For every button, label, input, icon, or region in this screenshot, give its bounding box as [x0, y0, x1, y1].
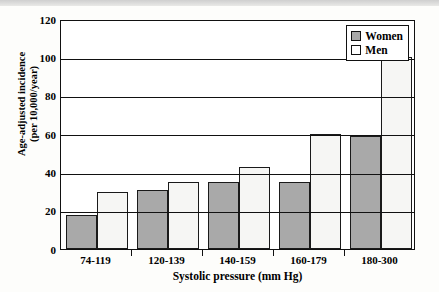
legend-swatch-women-icon — [351, 31, 361, 41]
bar-men-140-159 — [239, 167, 270, 249]
legend-label-women: Women — [365, 30, 403, 42]
y-tick-label-120: 120 — [40, 15, 57, 26]
y-tick-label-40: 40 — [45, 168, 56, 179]
y-tick-label-100: 100 — [40, 53, 57, 64]
x-axis-title: Systolic pressure (mm Hg) — [60, 270, 415, 282]
gridline-120 — [61, 20, 414, 21]
y-axis-title-line2: (per 10,000/year) — [28, 24, 40, 184]
bar-women-120-139 — [137, 190, 168, 249]
bar-men-160-179 — [310, 134, 341, 249]
bar-men-180-300 — [381, 57, 412, 249]
plot-area: Women Men — [60, 20, 415, 250]
gridline-80 — [61, 97, 414, 98]
legend-swatch-men-icon — [351, 45, 361, 55]
x-tick-label-120-139: 120-139 — [131, 254, 202, 266]
scan-edge-band — [0, 0, 439, 6]
x-tick-label-74-119: 74-119 — [60, 254, 131, 266]
y-tick-label-0: 0 — [51, 245, 57, 256]
bar-women-74-119 — [66, 215, 97, 250]
bar-men-120-139 — [168, 182, 199, 249]
bar-men-74-119 — [97, 192, 128, 250]
gridline-60 — [61, 135, 414, 136]
bar-women-160-179 — [279, 182, 310, 249]
y-axis-title: Age-adjusted incidence (per 10,000/year) — [16, 24, 40, 184]
x-axis-tick-labels: 74-119120-139140-159160-179180-300 — [60, 254, 415, 270]
gridline-20 — [61, 212, 414, 213]
x-tick-boundary-3 — [273, 249, 274, 256]
legend-item-men: Men — [351, 43, 403, 57]
x-tick-boundary-4 — [344, 249, 345, 256]
x-tick-label-140-159: 140-159 — [202, 254, 273, 266]
x-tick-label-160-179: 160-179 — [273, 254, 344, 266]
x-tick-boundary-2 — [202, 249, 203, 256]
chart-legend: Women Men — [346, 25, 409, 61]
gridline-40 — [61, 174, 414, 175]
bar-women-140-159 — [208, 182, 239, 249]
chart-figure: 020406080100120 Age-adjusted incidence (… — [0, 0, 439, 292]
x-tick-boundary-1 — [131, 249, 132, 256]
y-tick-label-80: 80 — [45, 91, 56, 102]
bar-women-180-300 — [350, 136, 381, 249]
legend-item-women: Women — [351, 29, 403, 43]
y-tick-label-60: 60 — [45, 130, 56, 141]
y-axis-title-line1: Age-adjusted incidence — [16, 24, 28, 184]
x-tick-label-180-300: 180-300 — [344, 254, 415, 266]
legend-label-men: Men — [365, 44, 387, 56]
y-tick-label-20: 20 — [45, 206, 56, 217]
